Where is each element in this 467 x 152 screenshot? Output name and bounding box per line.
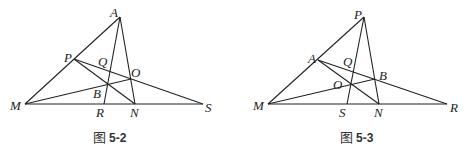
label-O: O [131,65,141,80]
label-N: N [129,105,140,120]
label-M: M [252,98,265,113]
label-R: R [449,100,458,115]
segment-MO [25,79,131,104]
label-B: B [379,68,387,83]
label-B: B [93,86,101,101]
caption-number: 5-3 [356,131,374,145]
label-A: A [307,51,316,66]
label-M: M [9,98,22,113]
geometry-figures: A P Q O B M R N S 图 5-2 P A Q O B M S N … [0,0,467,152]
figure-5-3: P A Q O B M S N R 图 5-3 [252,7,458,145]
segment-MB [268,79,375,104]
caption-number: 5-2 [109,131,127,145]
caption-prefix: 图 [340,130,353,145]
label-S: S [339,105,346,120]
label-P: P [353,7,362,22]
label-S: S [205,100,212,115]
caption-prefix: 图 [93,130,106,145]
label-O: O [333,77,343,92]
segment-AN [120,17,135,104]
label-P: P [63,50,72,65]
label-A: A [109,5,118,20]
segment-PN [364,17,379,104]
label-Q: Q [343,54,353,69]
label-N: N [373,105,384,120]
label-R: R [95,105,104,120]
label-Q: Q [98,54,108,69]
figure-5-2: A P Q O B M R N S 图 5-2 [9,5,212,145]
